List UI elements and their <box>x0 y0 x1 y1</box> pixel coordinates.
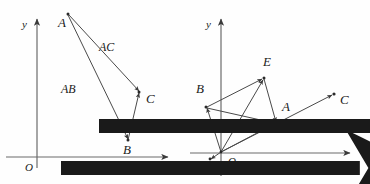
right-point-label-c: C <box>340 93 349 106</box>
right-point-label-d: D <box>205 163 214 176</box>
left-point-a-dot <box>67 13 70 16</box>
overarrow-icon <box>134 110 370 184</box>
right-origin-label: O <box>228 156 236 167</box>
right-point-label-a: A <box>282 100 290 113</box>
right-point-label-b: B <box>196 82 204 95</box>
left-vector-label-ac: AC <box>99 34 114 55</box>
left-y-axis-label: y <box>22 19 27 30</box>
figure-canvas: y x O A B C AB AC BC y x O A B C D E <box>0 0 370 184</box>
left-origin-label: O <box>25 162 33 173</box>
left-vector-label-ab: AB <box>61 76 76 97</box>
left-vector-label-bc: BC <box>134 110 149 131</box>
right-point-label-e: E <box>263 55 271 68</box>
left-point-label-a: A <box>58 16 66 29</box>
right-y-axis-label: y <box>206 19 211 30</box>
right-x-axis-label: x <box>342 157 347 168</box>
